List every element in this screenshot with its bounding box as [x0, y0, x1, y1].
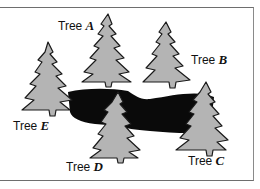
tree-d-prefix: Tree [66, 160, 94, 174]
tree-a-label: Tree A [58, 19, 94, 32]
tree-e-letter: E [41, 118, 50, 133]
tree-d-letter: D [94, 159, 103, 174]
tree-b-prefix: Tree [191, 53, 219, 67]
tree-b-label: Tree B [191, 53, 227, 66]
tree-c-letter: C [216, 153, 225, 168]
tree-c-prefix: Tree [188, 154, 216, 168]
tree-e-label: Tree E [13, 119, 49, 132]
tree-e-icon [22, 42, 72, 116]
tree-b-letter: B [219, 52, 228, 67]
tree-c-label: Tree C [188, 154, 224, 167]
tree-d-label: Tree D [66, 160, 103, 173]
tree-e-prefix: Tree [13, 119, 41, 133]
tree-a-letter: A [86, 18, 95, 33]
tree-a-prefix: Tree [58, 19, 86, 33]
tree-b-icon [143, 22, 190, 88]
